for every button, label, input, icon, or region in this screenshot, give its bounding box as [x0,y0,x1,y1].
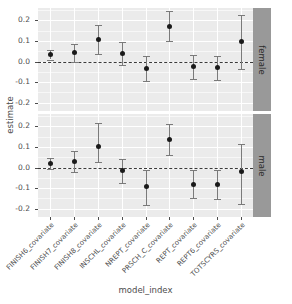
y-axis-tick-mark [35,209,38,210]
y-axis-tick-label: 0.1 [0,143,30,151]
x-axis-tick-mark [146,217,147,220]
data-point [48,52,53,57]
y-axis-tick-mark [35,41,38,42]
gridline-vertical [193,114,194,217]
error-bar-cap [143,81,150,82]
data-point [239,39,244,44]
error-bar-cap [214,56,221,57]
error-bar-cap [95,162,102,163]
panel-male [38,114,253,217]
x-axis-title: model_index [38,285,253,295]
x-axis-tick-mark [122,217,123,220]
error-bar-cap [143,205,150,206]
error-bar-cap [166,41,173,42]
facet-strip-label-male: male [257,155,267,176]
data-point [96,37,101,42]
y-axis-tick-mark [35,20,38,21]
error-bar-cap [166,155,173,156]
y-axis-tick-mark [35,188,38,189]
gridline-vertical [98,8,99,111]
error-bar-cap [95,25,102,26]
error-bar-cap [95,54,102,55]
data-point [215,65,220,70]
data-point [215,182,220,187]
x-axis-tick-mark [217,217,218,220]
error-bar-cap [119,42,126,43]
error-bar-cap [166,11,173,12]
data-point [72,159,77,164]
error-bar-cap [71,44,78,45]
error-bar-cap [190,79,197,80]
y-axis-tick-label: -0.2 [0,205,30,213]
reference-line-zero [38,168,253,169]
y-axis-tick-label: 0.2 [0,122,30,130]
y-axis-tick-label: 0.2 [0,16,30,24]
error-bar-cap [95,123,102,124]
error-bar-cap [47,169,54,170]
error-bar-cap [119,65,126,66]
error-bar-cap [238,204,245,205]
y-axis-tick-label: -0.2 [0,99,30,107]
x-axis-tick-mark [193,217,194,220]
error-bar-cap [238,15,245,16]
y-axis-tick-label: 0.1 [0,37,30,45]
gridline-vertical [217,114,218,217]
error-bar-cap [190,170,197,171]
y-axis-tick-mark [35,126,38,127]
error-bar-cap [47,158,54,159]
error-bar-cap [71,62,78,63]
data-point [48,161,53,166]
data-point [144,66,149,71]
error-bar-cap [119,159,126,160]
panel-female [38,8,253,111]
error-bar-cap [71,151,78,152]
y-axis-tick-mark [35,147,38,148]
facet-strip-female: female [253,8,271,111]
y-axis-tick-mark [35,103,38,104]
error-bar-cap [190,198,197,199]
error-bar-cap [119,183,126,184]
error-bar-cap [214,80,221,81]
error-bar-cap [143,56,150,57]
x-axis-tick-mark [169,217,170,220]
y-axis-tick-mark [35,82,38,83]
error-bar-cap [214,170,221,171]
data-point [191,64,196,69]
error-bar-cap [47,60,54,61]
error-bar-cap [238,69,245,70]
data-point [96,144,101,149]
data-point [120,51,125,56]
error-bar-cap [238,144,245,145]
error-bar-cap [47,50,54,51]
data-point [239,169,244,174]
x-axis-tick-mark [50,217,51,220]
error-bar [98,123,99,162]
x-axis-tick-mark [98,217,99,220]
y-axis-tick-label: 0.0 [0,164,30,172]
error-bar-cap [143,170,150,171]
error-bar-cap [214,199,221,200]
data-point [167,24,172,29]
x-axis-tick-mark [241,217,242,220]
facet-strip-male: male [253,114,271,217]
data-point [120,168,125,173]
data-point [167,137,172,142]
x-axis-tick-mark [74,217,75,220]
y-axis-tick-label: 0.0 [0,58,30,66]
y-axis-tick-label: -0.1 [0,184,30,192]
chart-root: estimate female male model_index 0.20.10… [0,0,292,304]
y-axis-tick-label: -0.1 [0,78,30,86]
y-axis-tick-mark [35,62,38,63]
y-axis-tick-mark [35,168,38,169]
error-bar-cap [71,172,78,173]
facet-strip-label-female: female [257,45,267,74]
data-point [191,182,196,187]
error-bar-cap [166,124,173,125]
error-bar-cap [190,55,197,56]
data-point [72,50,77,55]
